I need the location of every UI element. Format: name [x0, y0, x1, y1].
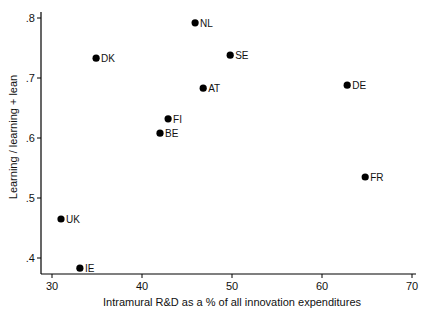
marker-dot-icon: [200, 85, 207, 92]
marker-dot-icon: [192, 19, 199, 26]
y-tick-label: .8: [26, 12, 35, 24]
data-point-fi: FI: [165, 114, 182, 125]
marker-dot-icon: [362, 173, 369, 180]
x-axis-label: Intramural R&D as a % of all innovation …: [52, 296, 412, 308]
marker-dot-icon: [93, 55, 100, 62]
data-point-fr: FR: [362, 172, 384, 183]
point-label: DE: [352, 80, 366, 91]
marker-dot-icon: [165, 115, 172, 122]
point-label: FI: [173, 114, 182, 125]
point-label: FR: [370, 172, 383, 183]
marker-dot-icon: [156, 130, 163, 137]
point-label: DK: [101, 53, 115, 64]
marker-dot-icon: [227, 52, 234, 59]
data-point-at: AT: [200, 83, 221, 94]
y-tick-label: .5: [26, 192, 35, 204]
point-label: NL: [200, 18, 213, 29]
data-point-be: BE: [156, 128, 178, 139]
x-tick-label: 40: [136, 280, 148, 292]
data-points: NLDKSEATDEFIBEFRUKIE: [57, 18, 383, 274]
y-tick-label: .6: [26, 132, 35, 144]
point-label: UK: [66, 214, 80, 225]
data-point-de: DE: [344, 80, 367, 91]
x-tick-label: 70: [406, 280, 418, 292]
marker-dot-icon: [76, 265, 83, 272]
point-label: BE: [165, 128, 179, 139]
x-tick-label: 50: [226, 280, 238, 292]
data-point-uk: UK: [57, 214, 80, 225]
point-label: IE: [85, 263, 95, 274]
data-point-ie: IE: [76, 263, 94, 274]
x-tick-label: 60: [316, 280, 328, 292]
x-tick-label: 30: [46, 280, 58, 292]
data-point-se: SE: [227, 50, 249, 61]
axes: 3040506070.4.5.6.7.8: [26, 12, 418, 292]
marker-dot-icon: [344, 82, 351, 89]
marker-dot-icon: [57, 215, 64, 222]
y-tick-label: .7: [26, 72, 35, 84]
scatter-plot: 3040506070.4.5.6.7.8 NLDKSEATDEFIBEFRUKI…: [0, 0, 424, 313]
data-point-dk: DK: [93, 53, 116, 64]
point-label: SE: [235, 50, 249, 61]
data-point-nl: NL: [192, 18, 214, 29]
y-tick-label: .4: [26, 252, 35, 264]
y-axis-label: Learning / learning + lean: [7, 75, 19, 199]
point-label: AT: [208, 83, 220, 94]
